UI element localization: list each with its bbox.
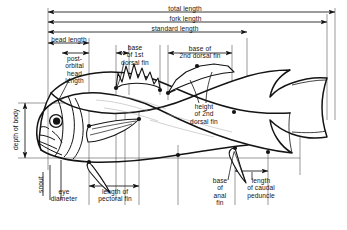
dot-2nd-dorsal-tip bbox=[195, 64, 199, 68]
cheek-line bbox=[52, 131, 62, 143]
fish-belly-line bbox=[41, 145, 248, 162]
fish-eye-pupil bbox=[53, 118, 60, 125]
label-length-of-caudal-peduncle: length of caudal peduncle bbox=[238, 177, 284, 199]
dot-2nd-dorsal-origin bbox=[166, 91, 170, 95]
dot-pelvic-origin bbox=[87, 160, 91, 164]
dot-anal-origin bbox=[176, 153, 180, 157]
dot-pectoral-tip bbox=[137, 117, 141, 121]
pectoral-fin bbox=[87, 119, 139, 142]
label-eye-diameter: eye diameter bbox=[43, 188, 85, 203]
label-base-of-1st-dorsal-fin: base of 1st dorsal fin bbox=[112, 44, 158, 66]
mouth-upper-line bbox=[39, 135, 55, 140]
label-postorbital-head-length: post- orbital head length bbox=[58, 55, 91, 85]
label-base-of-2nd-dorsal-fin: base of 2nd dorsal fin bbox=[166, 45, 234, 60]
label-fork-length: fork length bbox=[158, 15, 213, 22]
dot-1st-dorsal-origin bbox=[114, 86, 118, 90]
fish-measurement-diagram: total length fork length standard length… bbox=[0, 0, 347, 230]
dot-pectoral-origin bbox=[87, 124, 91, 128]
label-head-length: head length bbox=[41, 36, 97, 43]
label-height-of-2nd-dorsal-fin: height of 2nd dorsal fin bbox=[178, 103, 230, 125]
label-base-of-anal-fin: base of anal fin bbox=[208, 177, 232, 207]
dot-anal-end bbox=[233, 146, 237, 150]
label-length-of-pectoral-fin: length of pectoral fin bbox=[88, 188, 142, 203]
label-depth-of-body: depth of body bbox=[12, 98, 19, 160]
label-total-length: total length bbox=[155, 5, 215, 12]
dot-caudal-start bbox=[266, 150, 270, 154]
dot-2nd-dorsal-end bbox=[232, 110, 236, 114]
label-standard-length: standard length bbox=[140, 25, 210, 32]
dot-1st-dorsal-end bbox=[158, 88, 162, 92]
